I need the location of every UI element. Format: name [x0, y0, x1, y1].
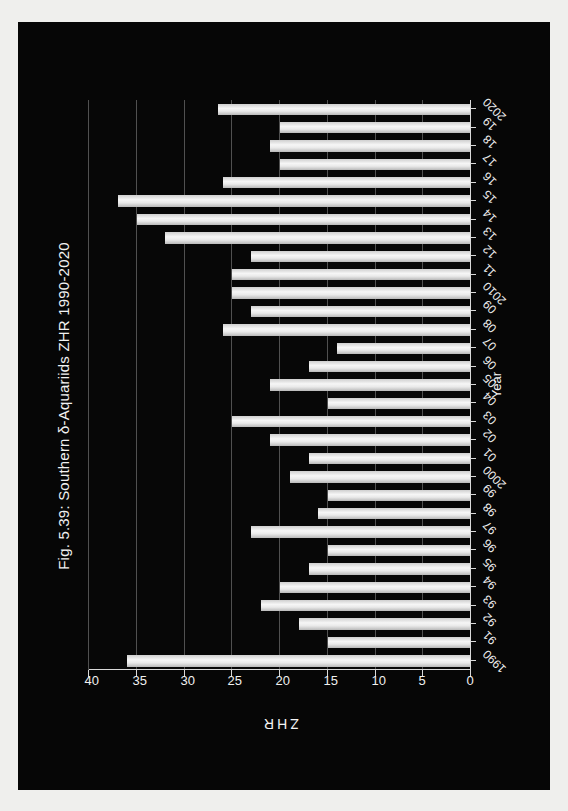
y-axis-line: [89, 669, 471, 670]
bar: [309, 361, 471, 372]
bar: [280, 122, 471, 133]
x-axis-tick: [471, 605, 476, 606]
y-axis-tick-label: 30: [180, 673, 184, 688]
x-axis-tick: [471, 145, 476, 146]
figure-panel: Fig. 5.39: Southern δ-Aquariids ZHR 1990…: [18, 22, 550, 790]
x-axis-tick: [471, 494, 476, 495]
y-axis-tick-label: 20: [276, 673, 280, 688]
gridline: [184, 100, 185, 670]
bar: [309, 453, 471, 464]
plot-area: 0510152025303540 19909192939495969798992…: [89, 100, 471, 670]
y-axis-tick-label: 35: [132, 673, 136, 688]
bar: [218, 104, 471, 115]
x-axis-tick: [471, 255, 476, 256]
bar: [232, 287, 471, 298]
x-axis-tick: [471, 402, 476, 403]
y-axis-tick-label: 40: [85, 673, 89, 688]
bar: [127, 655, 471, 666]
bar: [118, 195, 471, 206]
x-axis-tick: [471, 163, 476, 164]
x-axis-tick: [471, 200, 476, 201]
x-axis-tick: [471, 568, 476, 569]
x-axis-title: Year: [489, 100, 504, 670]
bar: [137, 214, 471, 225]
bar: [290, 471, 471, 482]
y-axis-title: ZHR: [89, 714, 471, 734]
x-axis-tick: [471, 329, 476, 330]
x-axis-tick: [471, 108, 476, 109]
x-axis-tick: [471, 310, 476, 311]
bar: [232, 416, 471, 427]
x-axis-tick: [471, 182, 476, 183]
x-axis-line: [470, 100, 471, 670]
x-axis-tick: [471, 660, 476, 661]
x-axis-tick: [471, 219, 476, 220]
bar: [328, 545, 471, 556]
bar: [270, 434, 471, 445]
y-axis-tick-label: 0: [467, 673, 471, 688]
bar: [299, 618, 471, 629]
gridline: [88, 100, 89, 670]
x-axis-tick: [471, 347, 476, 348]
bar: [309, 563, 471, 574]
bar: [328, 490, 471, 501]
x-axis-tick: [471, 641, 476, 642]
x-axis-tick: [471, 586, 476, 587]
bar: [251, 251, 471, 262]
bar: [280, 582, 471, 593]
y-axis-tick-label: 25: [228, 673, 232, 688]
x-axis-tick: [471, 549, 476, 550]
bar: [251, 526, 471, 537]
bar: [280, 159, 471, 170]
x-axis-tick: [471, 274, 476, 275]
bar: [223, 177, 471, 188]
y-axis-tick-label: 15: [323, 673, 327, 688]
bar: [328, 637, 471, 648]
rotated-chart: Fig. 5.39: Southern δ-Aquariids ZHR 1990…: [49, 56, 519, 756]
bar: [251, 306, 471, 317]
x-axis-tick: [471, 384, 476, 385]
bar: [270, 379, 471, 390]
x-axis-tick: [471, 127, 476, 128]
y-axis-tick-label: 5: [419, 673, 423, 688]
bar: [223, 324, 471, 335]
bar: [337, 343, 471, 354]
bar: [165, 232, 471, 243]
x-axis-tick: [471, 513, 476, 514]
bar: [270, 140, 471, 151]
bar: [261, 600, 471, 611]
screenshot-page: Fig. 5.39: Southern δ-Aquariids ZHR 1990…: [0, 0, 568, 811]
bar: [232, 269, 471, 280]
x-axis-tick: [471, 366, 476, 367]
chart-title: Fig. 5.39: Southern δ-Aquariids ZHR 1990…: [55, 56, 72, 756]
x-axis-tick: [471, 476, 476, 477]
y-axis-tick-label: 10: [371, 673, 375, 688]
x-axis-tick: [471, 237, 476, 238]
gridline: [136, 100, 137, 670]
x-axis-tick: [471, 458, 476, 459]
bar: [328, 398, 471, 409]
x-axis-tick: [471, 421, 476, 422]
x-axis-tick: [471, 623, 476, 624]
x-axis-tick: [471, 292, 476, 293]
x-axis-tick: [471, 531, 476, 532]
bar: [318, 508, 471, 519]
x-axis-tick: [471, 439, 476, 440]
y-axis-title-text: ZHR: [261, 716, 299, 732]
